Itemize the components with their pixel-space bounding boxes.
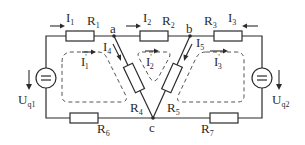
wires bbox=[46, 36, 262, 118]
loop-path-3 bbox=[178, 52, 245, 102]
voltage-source-uq1 bbox=[36, 68, 56, 88]
label-loop-i1: I'1 bbox=[81, 53, 89, 71]
resistor-r5 bbox=[162, 63, 183, 93]
label-r6: R6 bbox=[97, 121, 110, 138]
resistor-r3 bbox=[214, 31, 242, 41]
label-node-c: c bbox=[149, 120, 155, 135]
label-r1: R1 bbox=[87, 13, 100, 30]
label-r5: R5 bbox=[167, 100, 180, 117]
label-loop-i3: I'3 bbox=[214, 53, 222, 71]
loop-path-2 bbox=[138, 52, 170, 81]
label-node-b: b bbox=[186, 21, 193, 36]
label-loop-i2: I'2 bbox=[146, 53, 154, 71]
current-arrow-i1 bbox=[50, 24, 65, 29]
label-uq2: Uq2 bbox=[272, 92, 289, 109]
resistor-r6 bbox=[70, 113, 98, 123]
resistor-r2 bbox=[140, 31, 168, 41]
label-node-a: a bbox=[110, 21, 116, 36]
loop-arrow-2 bbox=[145, 49, 159, 54]
current-arrow-i2 bbox=[126, 24, 141, 29]
circuit-diagram: R1 R2 R3 R4 R5 R6 R7 a b c I1 I2 I3 I4 I… bbox=[0, 0, 305, 145]
resistor-r7 bbox=[210, 113, 238, 123]
resistor-r4 bbox=[123, 63, 144, 93]
current-arrow-i4 bbox=[113, 44, 121, 61]
label-r3: R3 bbox=[204, 13, 217, 30]
wire-right-bottom bbox=[238, 88, 262, 118]
label-i5: I5 bbox=[196, 35, 204, 52]
current-arrow-i3 bbox=[242, 24, 258, 29]
label-i2: I2 bbox=[143, 10, 151, 27]
label-i1: I1 bbox=[66, 10, 74, 27]
loop-path-1 bbox=[62, 52, 127, 102]
voltage-source-uq2 bbox=[252, 68, 272, 88]
wire-left-bottom bbox=[46, 88, 70, 118]
voltage-arrow-uq1 bbox=[26, 70, 32, 90]
label-i3: I3 bbox=[228, 10, 236, 27]
wire-left-top bbox=[46, 36, 66, 68]
wire-right-top bbox=[242, 36, 262, 68]
resistor-r1 bbox=[66, 31, 94, 41]
label-r4: R4 bbox=[130, 100, 143, 117]
label-i4: I4 bbox=[103, 39, 111, 56]
voltage-arrow-uq2 bbox=[276, 70, 282, 90]
label-r2: R2 bbox=[162, 13, 175, 30]
label-uq1: Uq1 bbox=[18, 92, 35, 109]
